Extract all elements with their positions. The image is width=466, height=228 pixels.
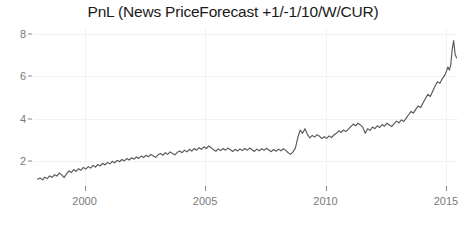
- y-tick-label: 8: [0, 28, 26, 40]
- y-tick-mark: [28, 34, 32, 35]
- y-tick-label: 4: [0, 113, 26, 125]
- chart-root: PnL (News PriceForecast +1/-1/10/W/CUR) …: [0, 0, 466, 228]
- x-tick-label: 2010: [313, 195, 337, 207]
- y-tick-mark: [28, 118, 32, 119]
- x-tick-mark: [205, 186, 206, 191]
- y-tick-label: 6: [0, 70, 26, 82]
- x-tick-mark: [446, 186, 447, 191]
- y-tick-label: 2: [0, 155, 26, 167]
- x-tick-label: 2005: [193, 195, 217, 207]
- series-line-pnl: [34, 28, 458, 186]
- y-tick-mark: [28, 76, 32, 77]
- y-tick-mark: [28, 160, 32, 161]
- chart-title: PnL (News PriceForecast +1/-1/10/W/CUR): [0, 3, 466, 21]
- plot-area: [34, 28, 458, 186]
- x-tick-mark: [85, 186, 86, 191]
- x-tick-label: 2000: [72, 195, 96, 207]
- x-tick-mark: [326, 186, 327, 191]
- x-tick-label: 2015: [434, 195, 458, 207]
